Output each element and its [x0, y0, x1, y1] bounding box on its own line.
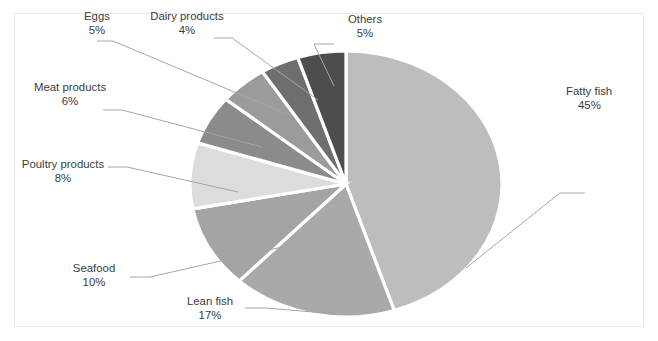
callout-meat-products-name: Meat products [20, 81, 120, 95]
chart-screenshot: Eggs 5% Dairy products 4% Others 5% Meat… [0, 0, 658, 341]
callout-fatty-fish-name: Fatty fish [566, 85, 646, 99]
callout-poultry-products-pct: 8% [11, 172, 115, 186]
callout-meat-products: Meat products 6% [20, 81, 120, 108]
callout-eggs: Eggs 5% [63, 10, 131, 37]
callout-fatty-fish: Fatty fish 45% [566, 85, 646, 112]
callout-seafood-pct: 10% [60, 276, 128, 290]
callout-poultry-products: Poultry products 8% [11, 158, 115, 185]
callout-others: Others 5% [334, 13, 396, 40]
callout-meat-products-pct: 6% [20, 95, 120, 109]
callout-lean-fish-name: Lean fish [177, 295, 243, 309]
callout-dairy-products-pct: 4% [131, 24, 243, 38]
callout-poultry-products-name: Poultry products [11, 158, 115, 172]
callout-dairy-products: Dairy products 4% [131, 10, 243, 37]
callout-dairy-products-name: Dairy products [131, 10, 243, 24]
callout-seafood: Seafood 10% [60, 262, 128, 289]
callout-eggs-pct: 5% [63, 24, 131, 38]
callout-others-pct: 5% [334, 27, 396, 41]
callout-seafood-name: Seafood [60, 262, 128, 276]
pie-slice-group [190, 51, 502, 317]
callout-eggs-name: Eggs [63, 10, 131, 24]
callout-others-name: Others [334, 13, 396, 27]
callout-fatty-fish-pct: 45% [566, 99, 646, 113]
callout-lean-fish: Lean fish 17% [177, 295, 243, 322]
callout-lean-fish-pct: 17% [177, 309, 243, 323]
